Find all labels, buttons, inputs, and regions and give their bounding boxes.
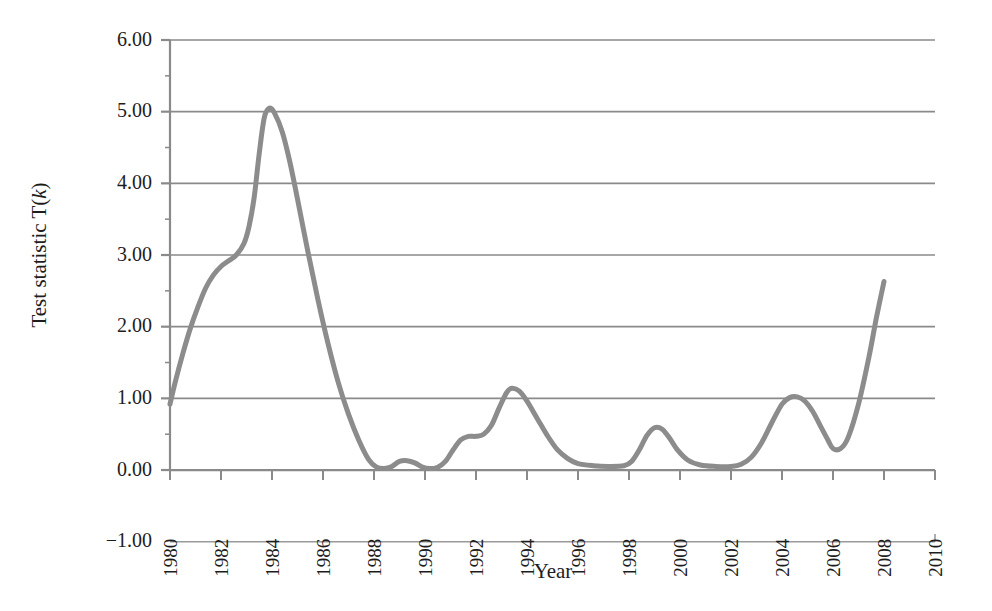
chart-figure: 6.005.004.003.002.001.000.00−1.00 198019…	[0, 0, 992, 611]
y-tick-label-5.00: 5.00	[117, 99, 152, 121]
y-axis-title: Test statistic T(k)	[27, 182, 51, 327]
x-tick-label-2008: 2008	[874, 539, 895, 577]
x-tick-label-1992: 1992	[466, 539, 487, 577]
x-tick-label-2006: 2006	[823, 539, 844, 577]
line-chart: 6.005.004.003.002.001.000.00−1.00 198019…	[0, 0, 992, 611]
x-tick-label-1984: 1984	[262, 538, 283, 577]
x-tick-label-1982: 1982	[211, 539, 232, 577]
x-tick-label-1980: 1980	[160, 539, 181, 577]
y-tick-label-4.00: 4.00	[117, 171, 152, 193]
x-axis-ticks	[170, 470, 935, 480]
x-tick-label-1998: 1998	[619, 539, 640, 577]
x-tick-label-2002: 2002	[721, 539, 742, 577]
y-tick-label--1.00: −1.00	[106, 529, 152, 551]
y-tick-label-3.00: 3.00	[117, 243, 152, 265]
data-series-line	[170, 108, 884, 469]
gridlines	[170, 40, 935, 470]
x-tick-label-2000: 2000	[670, 539, 691, 577]
y-tick-label-1.00: 1.00	[117, 386, 152, 408]
y-tick-label-0.00: 0.00	[117, 458, 152, 480]
x-axis-title: Year	[534, 559, 573, 583]
x-tick-label-2010: 2010	[925, 539, 946, 577]
x-tick-label-2004: 2004	[772, 538, 793, 577]
x-tick-label-1986: 1986	[313, 539, 334, 577]
y-tick-label-2.00: 2.00	[117, 314, 152, 336]
y-tick-label-6.00: 6.00	[117, 28, 152, 50]
x-tick-label-1990: 1990	[415, 539, 436, 577]
y-axis-title-prefix: Test statistic T(	[27, 199, 51, 328]
y-axis-title-suffix: )	[27, 182, 51, 189]
y-axis-tick-labels: 6.005.004.003.002.001.000.00−1.00	[106, 28, 152, 552]
x-tick-label-1988: 1988	[364, 539, 385, 577]
